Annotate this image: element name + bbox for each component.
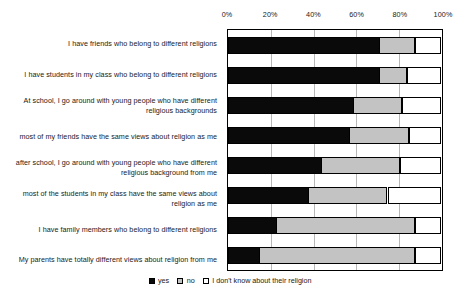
legend-item-no: no [177,276,195,286]
bar-segment-i-don-t-know-about-their-religion [388,187,442,204]
bar-row [228,217,442,234]
legend-label-yes: yes [158,276,169,285]
chart-legend: yes no I don't know about their religion [0,276,460,286]
y-axis-category-labels: I have friends who belong to different r… [0,29,222,271]
bar-segment-i-don-t-know-about-their-religion [409,127,441,144]
bar-segment-i-don-t-know-about-their-religion [407,67,441,84]
x-tick-label-100: 100% [434,10,453,20]
bar-segment-no [259,247,415,264]
bar-row [228,157,442,174]
bar-segment-no [379,67,407,84]
bar-segment-yes [228,157,322,174]
bar-row [228,187,442,204]
category-label-6: most of the students in my class have th… [5,189,217,208]
category-label-3: At school, I go around with young people… [5,96,217,115]
category-label-4: most of my friends have the same views a… [5,132,217,142]
category-label-1: I have friends who belong to different r… [5,39,217,49]
bar-segment-no [353,97,402,114]
bar-segment-i-don-t-know-about-their-religion [415,247,441,264]
x-tick-label-20: 20% [263,10,278,20]
x-tick-label-80: 80% [392,10,407,20]
bars-layer [228,30,442,270]
bar-segment-yes [228,127,350,144]
legend-swatch-no-icon [177,278,183,284]
bar-segment-yes [228,187,309,204]
bar-segment-yes [228,67,380,84]
bar-segment-i-don-t-know-about-their-religion [400,157,441,174]
bar-segment-no [349,127,409,144]
legend-item-yes: yes [149,276,170,286]
bar-row [228,247,442,264]
x-tick-label-60: 60% [349,10,364,20]
category-label-7: I have family members who belong to diff… [5,225,217,235]
plot-area [227,29,443,271]
bar-segment-no [379,37,415,54]
x-tick-label-40: 40% [306,10,321,20]
legend-label-no: no [187,276,195,285]
bar-segment-i-don-t-know-about-their-religion [415,37,441,54]
bar-row [228,97,442,114]
stacked-bar-chart: 0% 20% 40% 60% 80% 100% I have friends w… [0,0,460,291]
bar-segment-i-don-t-know-about-their-religion [415,217,441,234]
bar-segment-yes [228,97,354,114]
bar-row [228,37,442,54]
legend-item-dont-know: I don't know about their religion [203,276,312,286]
bar-row [228,67,442,84]
bar-segment-yes [228,217,277,234]
category-label-8: My parents have totally different views … [5,255,217,265]
bar-segment-yes [228,247,260,264]
category-label-5: after school, I go around with young peo… [5,158,217,177]
legend-swatch-dont-know-icon [203,278,209,284]
bar-segment-no [321,157,400,174]
bar-segment-no [276,217,415,234]
legend-label-dont-know: I don't know about their religion [212,276,311,285]
x-axis-tick-labels: 0% 20% 40% 60% 80% 100% [227,10,443,24]
bar-segment-no [308,187,387,204]
bar-segment-i-don-t-know-about-their-religion [402,97,441,114]
x-tick-label-0: 0% [222,10,233,20]
bar-row [228,127,442,144]
legend-swatch-yes-icon [149,278,155,284]
bar-segment-yes [228,37,380,54]
category-label-2: I have students in my class who belong t… [5,70,217,80]
